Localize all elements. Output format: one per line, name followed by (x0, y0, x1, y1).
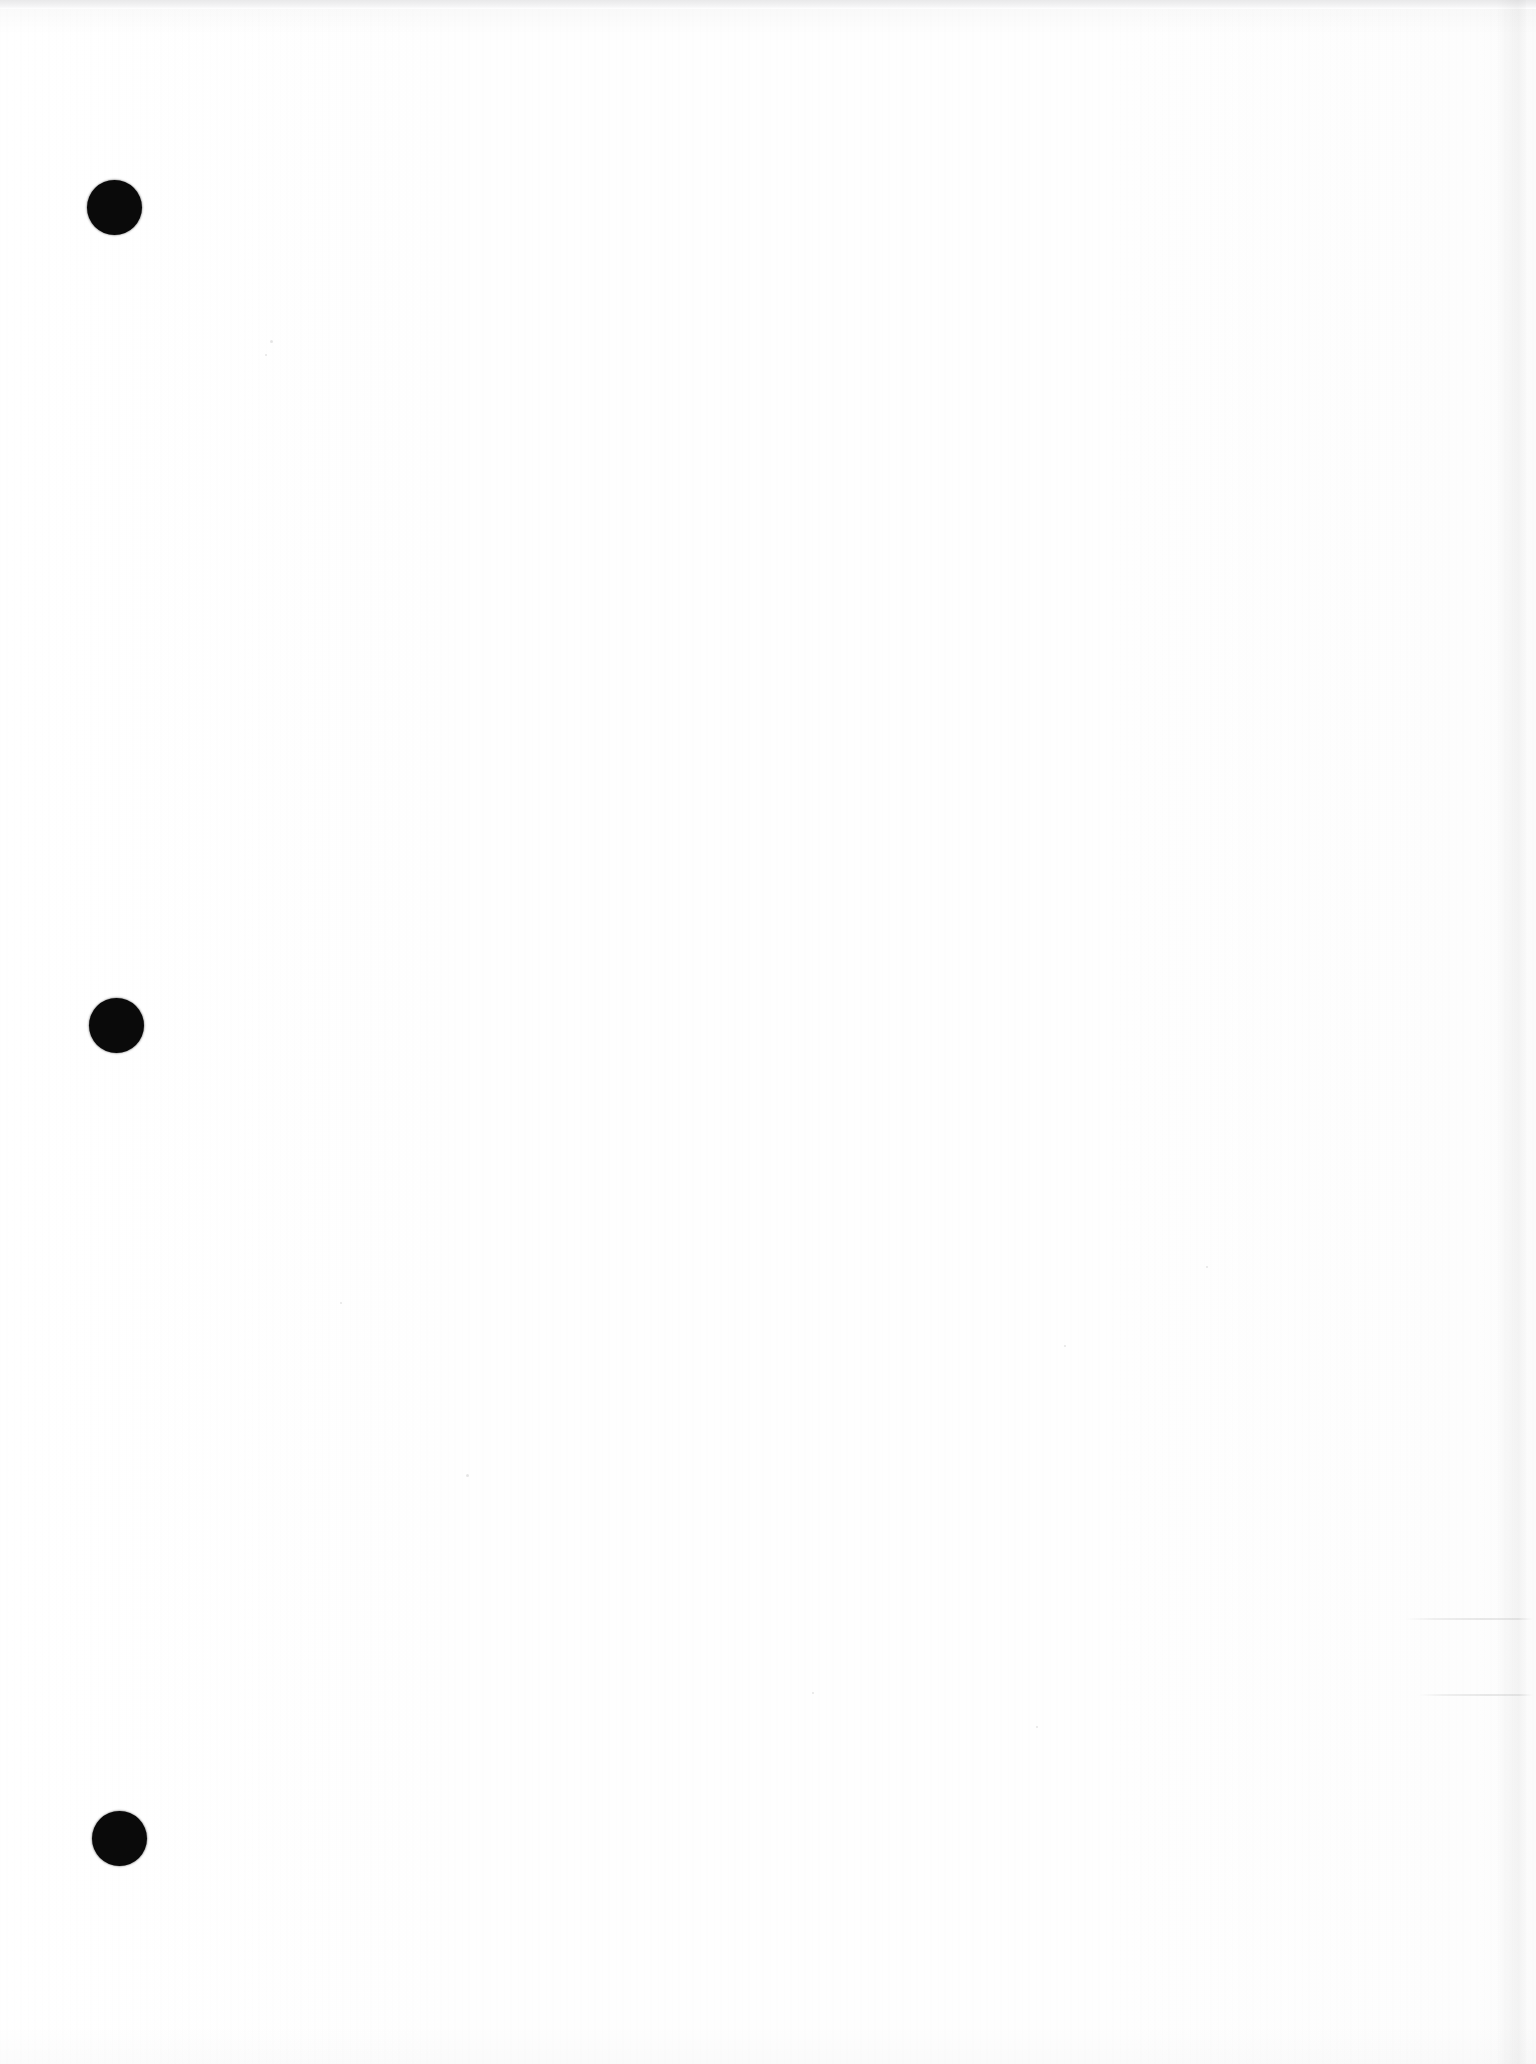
scanned-page: Scanned blank page (0, 0, 1536, 2064)
scan-artifact-line (1405, 1618, 1533, 1620)
hole-punch-mark (87, 180, 142, 235)
scan-speck (265, 354, 267, 356)
scan-speck (1036, 1726, 1038, 1728)
top-scan-fade (0, 9, 1536, 35)
paper-background (0, 0, 1536, 2064)
scan-speck (466, 1474, 469, 1477)
hole-punch-mark (92, 1811, 147, 1866)
scan-speck (812, 1692, 814, 1694)
top-scan-band (0, 0, 1536, 9)
scan-speck (270, 340, 273, 343)
scan-speck (1206, 1266, 1208, 1268)
scan-speck (1064, 1345, 1066, 1347)
bottom-scan-fade (0, 2024, 1536, 2064)
hole-punch-mark (89, 998, 144, 1053)
scan-speck (340, 1302, 342, 1304)
right-page-edge (1496, 0, 1526, 2064)
scan-artifact-line (1418, 1694, 1533, 1696)
